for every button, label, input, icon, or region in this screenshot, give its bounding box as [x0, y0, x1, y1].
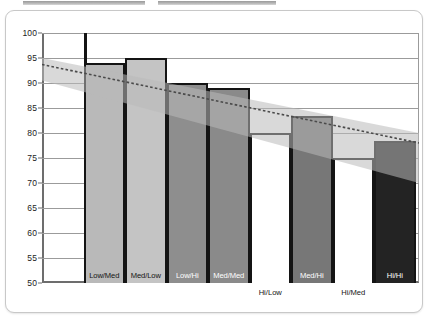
bar-med-med[interactable]: Med/Med — [208, 88, 250, 283]
legend-strip-right — [158, 1, 276, 5]
bar-label-med-hi: Med/Hi — [293, 271, 331, 280]
top-legend-strips — [0, 0, 428, 10]
bar-med-low[interactable]: Med/Low — [125, 58, 167, 283]
bar-series: Low/LowLow/MedMed/LowLow/HiMed/MedHi/Low… — [42, 33, 419, 283]
legend-strip-left — [23, 1, 145, 5]
bar-label-low-med: Low/Med — [86, 271, 124, 280]
bar-label-hi-med: Hi/Med — [333, 288, 375, 297]
bar-label-med-med: Med/Med — [210, 271, 248, 280]
upper-whisker — [84, 33, 87, 63]
chart-panel: 50556065707580859095100 Low/LowLow/MedMe… — [5, 10, 423, 313]
bar-label-low-hi: Low/Hi — [169, 271, 207, 280]
bar-med-hi[interactable]: Med/Hi — [291, 116, 333, 284]
chart-screenshot: 50556065707580859095100 Low/LowLow/MedMe… — [0, 0, 428, 320]
plot-area: 50556065707580859095100 Low/LowLow/MedMe… — [42, 33, 419, 283]
bar-hi-hi[interactable]: Hi/Hi — [374, 141, 416, 284]
bar-label-hi-low: Hi/Low — [250, 288, 292, 297]
bar-label-med-low: Med/Low — [127, 271, 165, 280]
bar-label-hi-hi: Hi/Hi — [376, 271, 414, 280]
bar-hi-med[interactable] — [333, 158, 375, 283]
bar-low-hi[interactable]: Low/Hi — [167, 83, 209, 283]
bar-low-med[interactable]: Low/Med — [84, 63, 126, 283]
bar-hi-low[interactable] — [250, 133, 292, 283]
